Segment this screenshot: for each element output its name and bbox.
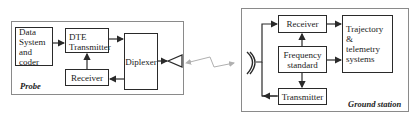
ground-dish-antenna-icon [247, 52, 255, 74]
connections [0, 0, 412, 119]
probe-antenna-icon [168, 55, 182, 67]
radio-link-icon [190, 57, 234, 67]
